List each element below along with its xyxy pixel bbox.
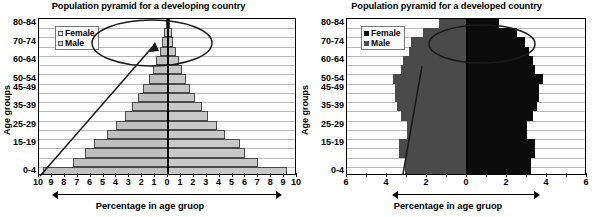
bar-female — [168, 148, 245, 157]
bar-female — [467, 93, 539, 102]
bar-female — [467, 130, 527, 139]
bar-male — [411, 37, 467, 46]
x-axis-ticks-developed: 6420246 — [346, 177, 586, 191]
bar-male — [85, 148, 168, 157]
bar-male — [107, 130, 168, 139]
x-tick-mark — [366, 173, 367, 177]
legend-label-male: Male — [371, 38, 390, 48]
bar-female — [168, 93, 195, 102]
bar-male — [138, 93, 168, 102]
x-tick-label: 3 — [126, 177, 131, 187]
y-tick-label: 0-4 — [23, 166, 36, 175]
bar-male — [94, 139, 168, 148]
bar-male — [399, 148, 467, 157]
bar-female — [467, 121, 527, 130]
bar-male — [409, 47, 467, 56]
y-tick-label: 35-39 — [13, 101, 36, 110]
bar-male — [407, 130, 467, 139]
x-tick-label: 0 — [463, 177, 468, 187]
x-tick-label: 6 — [583, 177, 588, 187]
y-axis-ticks-developed: 80-8470-7460-6450-5445-4935-3925-2915-19… — [298, 18, 344, 175]
zero-axis-line — [466, 19, 467, 174]
bar-male — [405, 158, 467, 167]
bar-female — [467, 84, 539, 93]
bar-male — [143, 84, 168, 93]
zero-axis-line — [167, 19, 168, 174]
x-tick-label: 10 — [33, 177, 43, 187]
y-tick-label: 0-4 — [331, 166, 344, 175]
chart-panel-developing: Population pyramid for a developing coun… — [0, 0, 297, 217]
bar-female — [168, 102, 202, 111]
x-tick-label: 2 — [139, 177, 144, 187]
bar-female — [467, 102, 537, 111]
bar-male — [156, 56, 168, 65]
arrow-head-right-icon — [534, 191, 540, 199]
x-tick-mark — [446, 173, 447, 177]
bar-male — [395, 93, 467, 102]
bar-female — [168, 111, 208, 120]
x-tick-label: 5 — [100, 177, 105, 187]
legend-item-female: Female — [364, 28, 401, 38]
bar-male — [405, 167, 467, 175]
legend-swatch-female-icon — [58, 31, 63, 36]
y-tick-label: 35-39 — [321, 101, 344, 110]
bar-female — [168, 47, 176, 56]
bar-male — [73, 158, 168, 167]
legend-swatch-female-icon — [364, 31, 369, 36]
bar-female — [467, 74, 543, 83]
x-tick-label: 2 — [423, 177, 428, 187]
x-tick-label: 7 — [255, 177, 260, 187]
x-tick-label: 8 — [61, 177, 66, 187]
x-tick-label: 1 — [152, 177, 157, 187]
x-axis-label-developing: Percentage in age gruop — [10, 201, 290, 211]
bar-female — [168, 65, 182, 74]
y-tick-label: 25-29 — [321, 120, 344, 129]
y-tick-label: 15-19 — [13, 138, 36, 147]
y-tick-label: 45-49 — [321, 83, 344, 92]
y-axis-ticks-developing: 80-8470-7460-6450-5445-4935-3925-2915-19… — [0, 18, 36, 175]
y-tick-label: 70-74 — [13, 37, 36, 46]
legend-item-male: Male — [364, 38, 401, 48]
bar-female — [168, 74, 186, 83]
x-tick-label: 4 — [216, 177, 221, 187]
x-tick-label: 4 — [383, 177, 388, 187]
x-tick-label: 3 — [203, 177, 208, 187]
bar-female — [467, 47, 529, 56]
bar-male — [116, 121, 168, 130]
x-tick-mark — [406, 173, 407, 177]
y-tick-label: 15-19 — [321, 138, 344, 147]
x-tick-label: 4 — [113, 177, 118, 187]
legend-swatch-male-icon — [58, 41, 63, 46]
bar-female — [467, 158, 531, 167]
bar-female — [467, 37, 525, 46]
legend-label-male: Male — [65, 38, 84, 48]
x-tick-label: 2 — [190, 177, 195, 187]
x-tick-label: 9 — [48, 177, 53, 187]
x-tick-mark — [526, 173, 527, 177]
bar-female — [467, 111, 533, 120]
bar-male — [125, 111, 168, 120]
bar-male — [395, 84, 467, 93]
bar-female — [168, 158, 258, 167]
legend-swatch-male-icon — [364, 41, 369, 46]
legend-item-female: Female — [58, 28, 95, 38]
x-tick-label: 6 — [242, 177, 247, 187]
bar-female — [168, 37, 173, 46]
x-tick-mark — [486, 173, 487, 177]
bar-female — [168, 121, 217, 130]
x-tick-label: 1 — [177, 177, 182, 187]
bar-female — [467, 65, 535, 74]
bar-male — [132, 102, 168, 111]
bar-female — [168, 130, 225, 139]
bar-female — [467, 148, 535, 157]
bar-male — [403, 56, 467, 65]
legend-label-female: Female — [371, 28, 401, 38]
x-tick-label: 5 — [229, 177, 234, 187]
bar-female — [467, 19, 499, 28]
bar-male — [153, 65, 168, 74]
y-tick-label: 80-84 — [321, 18, 344, 27]
bar-male — [43, 167, 168, 175]
bar-male — [401, 65, 467, 74]
bar-female — [467, 28, 517, 37]
chart-panel-developed: Population pyramid for a developed count… — [298, 0, 595, 217]
